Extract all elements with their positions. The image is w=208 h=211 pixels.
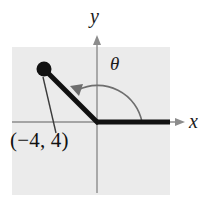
point-marker [37,62,52,77]
x-axis-label: x [189,111,198,131]
y-axis-arrowhead [93,35,101,45]
point-coordinate-label: (−4, 4) [10,130,69,151]
x-axis-arrowhead [175,118,185,126]
diagram-canvas [0,0,208,211]
angle-diagram: y x θ (−4, 4) [0,0,208,211]
theta-angle-label: θ [110,54,119,73]
y-axis-label: y [90,6,99,26]
